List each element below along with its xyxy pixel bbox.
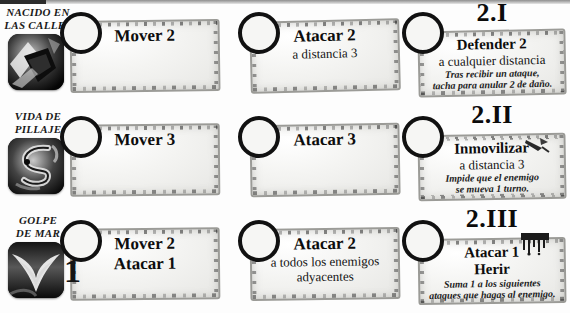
hero-name-line-1: VIDA DE bbox=[2, 110, 74, 123]
ability-token-ring[interactable] bbox=[60, 116, 102, 158]
hero-name-line-1: GOLPE bbox=[2, 214, 74, 227]
special-card-title: Defender 2 bbox=[456, 35, 526, 53]
move-card-second-title: Atacar 1 bbox=[114, 254, 177, 275]
special-card-subtitle: Herir bbox=[474, 261, 510, 279]
card-edge-right bbox=[214, 229, 219, 297]
special-card-note-line-2: tacha para anular 2 de daño. bbox=[433, 78, 553, 91]
ability-sheet: NACIDO EN LAS CALLES bbox=[0, 0, 570, 313]
initiative-number: 1 bbox=[64, 254, 81, 288]
ability-token-ring[interactable] bbox=[238, 220, 280, 262]
ability-token-ring[interactable] bbox=[238, 116, 280, 158]
card-edge-right bbox=[560, 239, 565, 301]
dark-shard-avatar-icon[interactable] bbox=[8, 34, 64, 90]
attack-card-subtitle: a todos los enemigos adyacentes bbox=[271, 253, 380, 285]
move-card-title: Mover 3 bbox=[114, 130, 175, 151]
card-edge-right bbox=[214, 21, 219, 89]
ability-token-ring[interactable] bbox=[238, 12, 280, 54]
special-card-title: Inmovilizar bbox=[454, 139, 529, 157]
special-card-note: Impide que el enemigo se mueva 1 turno. bbox=[445, 171, 539, 195]
special-tier-label: 2.II bbox=[418, 102, 566, 128]
special-card-note-line-2: se mueva 1 turno. bbox=[445, 182, 539, 195]
hero-row: GOLPE DE MAR bbox=[0, 212, 570, 313]
move-card-title: Mover 2 bbox=[114, 26, 175, 47]
ability-token-ring[interactable] bbox=[60, 12, 102, 54]
special-tier-label: 2.III bbox=[418, 206, 566, 232]
attack-card-subtitle: a distancia 3 bbox=[292, 45, 357, 62]
dark-serpent-scroll-avatar-icon[interactable] bbox=[8, 138, 64, 194]
attack-card-title: Atacar 3 bbox=[293, 129, 356, 150]
special-tier-label: 2.I bbox=[418, 0, 566, 26]
hero-name-line-1: NACIDO EN bbox=[2, 6, 74, 19]
special-card-note: Tras recibir un ataque, tacha para anula… bbox=[432, 67, 552, 91]
move-card-title: Mover 2 bbox=[114, 234, 175, 255]
hero-row: NACIDO EN LAS CALLES bbox=[0, 4, 570, 108]
card-edge-right bbox=[214, 125, 219, 193]
dark-wave-avatar-icon[interactable] bbox=[8, 242, 64, 298]
card-edge-right bbox=[393, 125, 398, 193]
attack-card-title: Atacar 2 bbox=[293, 234, 356, 255]
special-card-title: Atacar 1 bbox=[464, 244, 519, 262]
special-card-subtitle: a distancia 3 bbox=[459, 156, 524, 172]
card-edge-right bbox=[393, 20, 399, 88]
attack-card-subtitle-line-2: adyacentes bbox=[271, 268, 380, 285]
card-edge-right bbox=[559, 30, 564, 92]
hero-row: VIDA DE PILLAJE bbox=[0, 108, 570, 212]
attack-card-title: Atacar 2 bbox=[293, 25, 356, 47]
card-edge-right bbox=[394, 229, 399, 297]
special-card-note: Suma 1 a los siguientes ataques que haga… bbox=[429, 277, 556, 301]
attack-card-subtitle-line-1: a todos los enemigos bbox=[271, 253, 380, 270]
special-card-note-line-2: ataques que hagas al enemigo. bbox=[429, 288, 556, 301]
card-edge-right bbox=[559, 135, 564, 197]
